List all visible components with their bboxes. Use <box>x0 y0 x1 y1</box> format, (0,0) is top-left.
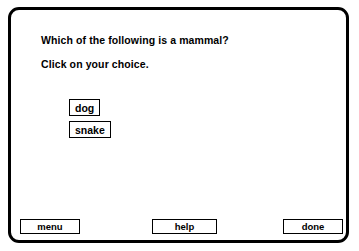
question-text: Which of the following is a mammal? <box>41 34 331 46</box>
menu-button[interactable]: menu <box>20 219 80 234</box>
choice-option-dog[interactable]: dog <box>69 99 100 116</box>
bottom-button-bar: menu help done <box>0 211 359 241</box>
choice-option-snake[interactable]: snake <box>69 121 111 138</box>
help-button[interactable]: help <box>152 219 217 234</box>
done-button[interactable]: done <box>283 219 343 234</box>
quiz-screen: Which of the following is a mammal? Clic… <box>0 0 359 251</box>
choice-list: dog snake <box>69 98 111 142</box>
choice-row: dog <box>69 98 111 120</box>
choice-row: snake <box>69 120 111 142</box>
instruction-text: Click on your choice. <box>41 58 331 70</box>
quiz-panel: Which of the following is a mammal? Clic… <box>8 7 349 243</box>
question-area: Which of the following is a mammal? Clic… <box>41 34 331 70</box>
